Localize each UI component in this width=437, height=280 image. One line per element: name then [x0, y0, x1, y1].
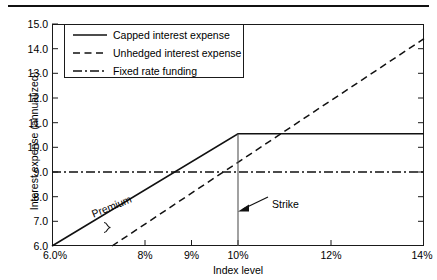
solid-line-key — [71, 28, 109, 42]
premium-brace-icon — [104, 223, 111, 233]
legend-item: Fixed rate funding — [65, 62, 243, 79]
chart-page: 15.0 14.0 13.0 12.0 11.0 10.0 9.0 8.0 7.… — [0, 0, 437, 280]
dashed-line-key — [71, 46, 109, 60]
y-axis-ticks-right — [418, 49, 424, 222]
y-axis-ticks — [52, 24, 58, 221]
chart-legend: Capped interest expense Unhedged interes… — [64, 24, 244, 78]
legend-item: Unhedged interest expense — [65, 44, 243, 61]
dashdot-line-key — [71, 64, 109, 78]
annotation-strike: Strike — [272, 198, 299, 210]
legend-item-label: Fixed rate funding — [113, 65, 197, 77]
legend-item-label: Unhedged interest expense — [113, 47, 241, 59]
strike-arrow-icon — [238, 197, 268, 212]
legend-item-label: Capped interest expense — [113, 29, 230, 41]
legend-item: Capped interest expense — [65, 26, 243, 43]
